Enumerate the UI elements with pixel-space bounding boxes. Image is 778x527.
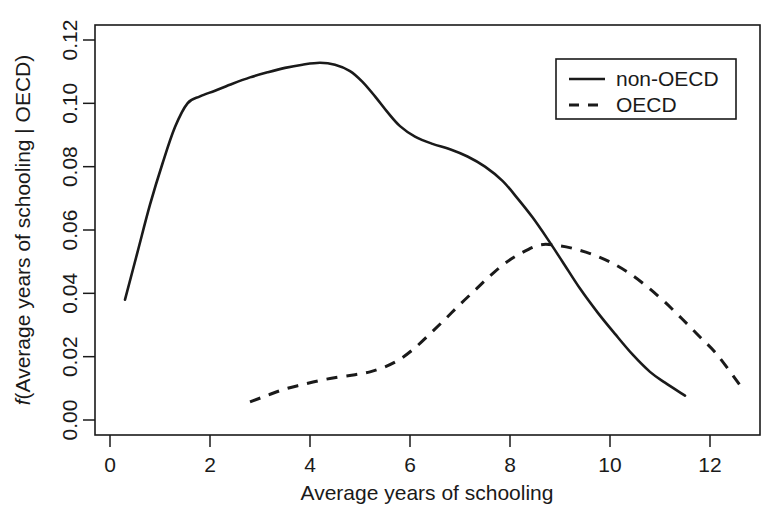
x-tick-label: 12 bbox=[698, 453, 721, 476]
density-plot: 0.000.020.040.060.080.100.12 024681012 A… bbox=[0, 0, 778, 527]
x-tick-label: 8 bbox=[504, 453, 516, 476]
y-tick-label: 0.00 bbox=[58, 400, 81, 441]
x-tick-label: 6 bbox=[404, 453, 416, 476]
y-tick-label: 0.08 bbox=[58, 146, 81, 187]
y-axis-title: f(Average years of schooling | OECD) bbox=[11, 55, 34, 406]
x-tick-label: 4 bbox=[304, 453, 316, 476]
y-axis-ticks: 0.000.020.040.060.080.100.12 bbox=[58, 20, 95, 441]
y-tick-label: 0.06 bbox=[58, 210, 81, 251]
x-tick-label: 0 bbox=[104, 453, 116, 476]
legend-label-non-oecd: non-OECD bbox=[616, 67, 719, 90]
y-axis-title-rest: (Average years of schooling | OECD) bbox=[11, 55, 34, 400]
x-axis-ticks: 024681012 bbox=[104, 435, 722, 476]
figure-container: 0.000.020.040.060.080.100.12 024681012 A… bbox=[0, 0, 778, 527]
y-tick-label: 0.02 bbox=[58, 336, 81, 377]
y-tick-label: 0.04 bbox=[58, 273, 81, 314]
y-tick-label: 0.12 bbox=[58, 20, 81, 61]
legend-label-oecd: OECD bbox=[616, 93, 677, 116]
x-tick-label: 10 bbox=[598, 453, 621, 476]
x-axis-title: Average years of schooling bbox=[301, 481, 554, 504]
x-tick-label: 2 bbox=[204, 453, 216, 476]
y-tick-label: 0.10 bbox=[58, 83, 81, 124]
legend[interactable]: non-OECD OECD bbox=[556, 59, 736, 119]
